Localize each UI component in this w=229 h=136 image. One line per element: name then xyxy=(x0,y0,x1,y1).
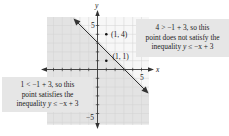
callout-left-line2: point satisfies the xyxy=(5,90,90,100)
callout-left-line1: 1 < −1 + 3, so this xyxy=(5,80,90,90)
x-axis-label: x xyxy=(155,65,160,74)
callout-left-text: inequality xyxy=(17,99,48,108)
point-1-4-label: (1, 4) xyxy=(111,30,128,39)
callout-left-line3: inequality y ≤ −x + 3 xyxy=(5,99,90,109)
callout-right-expr: ≤ −x + 3 xyxy=(186,42,213,51)
y-axis-label: y xyxy=(94,1,99,10)
callout-satisfies: 1 < −1 + 3, so this point satisfies the … xyxy=(2,77,93,112)
x-axis-arrow-right-icon xyxy=(148,67,154,71)
point-1-4 xyxy=(105,33,108,36)
callout-right-line2: point does not satisfy the xyxy=(139,33,226,43)
y-tick-label-neg5: −5 xyxy=(86,113,94,122)
point-1-1 xyxy=(105,59,108,62)
y-tick-label-5: 5 xyxy=(91,21,95,30)
x-axis-arrow-left-icon xyxy=(41,67,47,71)
callout-right-text: inequality xyxy=(152,42,183,51)
callout-right-line3: inequality y ≤ −x + 3 xyxy=(139,42,226,52)
callout-right-line1: 4 > −1 + 3, so this xyxy=(139,23,226,33)
callout-not-satisfy: 4 > −1 + 3, so this point does not satis… xyxy=(136,19,229,57)
y-axis-arrow-up-icon xyxy=(95,10,99,16)
y-axis-arrow-down-icon xyxy=(95,123,99,129)
x-tick-label-5: 5 xyxy=(140,73,144,82)
callout-left-expr: ≤ −x + 3 xyxy=(51,99,78,108)
point-1-1-label: (1, 1) xyxy=(113,52,130,61)
